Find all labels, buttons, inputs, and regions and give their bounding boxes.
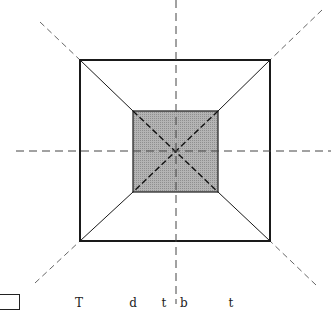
partial-box xyxy=(0,294,20,310)
caption-fragment: T d t b t xyxy=(75,296,236,310)
